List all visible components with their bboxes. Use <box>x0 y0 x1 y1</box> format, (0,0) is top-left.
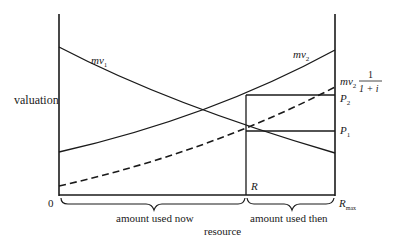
discount-fraction-denominator: 1 + i <box>359 83 379 94</box>
x-axis-label: resource <box>204 225 241 237</box>
resource-allocation-diagram: valuation 0 resource amount used now amo… <box>0 0 395 249</box>
brace-now <box>61 198 245 210</box>
discount-fraction-numerator: 1 <box>368 69 373 80</box>
brace-then <box>247 198 334 210</box>
brace-then-label: amount used then <box>250 212 328 224</box>
p1-label: P1 <box>339 124 351 139</box>
mv2-discounted-label: mv2 <box>340 75 357 90</box>
origin-label: 0 <box>48 197 54 209</box>
mv2-discounted-curve <box>59 87 335 186</box>
r-label: R <box>250 180 258 192</box>
p2-label: P2 <box>339 92 351 107</box>
rmax-label: Rmax <box>338 197 356 211</box>
y-axis-label: valuation <box>14 93 59 107</box>
brace-now-label: amount used now <box>116 212 194 224</box>
mv2-label: mv2 <box>293 48 310 63</box>
